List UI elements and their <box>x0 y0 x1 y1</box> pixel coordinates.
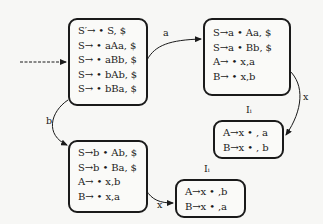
lr-item: S→ • aBb, $ <box>78 53 146 68</box>
edge-label-a: a <box>163 27 169 38</box>
edge-label-x-right: x <box>303 91 308 102</box>
state-Ibx: A→x • ,b B→x • ,a <box>175 179 246 218</box>
lr-item: A→ • x,b <box>78 175 146 190</box>
lr-item: A→x • , a <box>223 126 282 141</box>
lr-item: S′→ • S, $ <box>78 24 146 39</box>
state-after-b: S→b • Ab, $ S→b • Ba, $ A→ • x,b B→ • x,… <box>68 140 148 213</box>
state-Iax: A→x • , a B→x • , b <box>213 120 284 159</box>
state-label-Ibx: Iᵢ <box>204 163 210 174</box>
lr-item: S→ • bAb, $ <box>78 68 146 83</box>
lr-item: A→ • x,a <box>213 55 289 70</box>
lr-item: S→ • aAa, $ <box>78 39 146 54</box>
edge-a <box>147 39 201 60</box>
lr-item: B→ • x,a <box>78 190 146 205</box>
lr-item: A→x • ,b <box>185 185 244 200</box>
state-label-Iax: Iᵢ <box>246 104 252 115</box>
edge-label-b: b <box>46 115 52 126</box>
lr-item: S→a • Aa, $ <box>213 26 289 41</box>
lr-item: B→ • x,b <box>213 70 289 85</box>
lr-item: S→ • bBa, $ <box>78 82 146 97</box>
lr-item: S→b • Ab, $ <box>78 146 146 161</box>
lr-item: S→b • Ba, $ <box>78 161 146 176</box>
edge-label-x-bottom: x <box>157 199 162 210</box>
edge-b <box>52 100 68 145</box>
lr-item: B→x • ,a <box>185 200 244 215</box>
lr-item: S→a • Bb, $ <box>213 41 289 56</box>
state-after-a: S→a • Aa, $ S→a • Bb, $ A→ • x,a B→ • x,… <box>203 18 291 96</box>
lr-item: B→x • , b <box>223 141 282 156</box>
state-I0: S′→ • S, $ S→ • aAa, $ S→ • aBb, $ S→ • … <box>68 18 148 106</box>
